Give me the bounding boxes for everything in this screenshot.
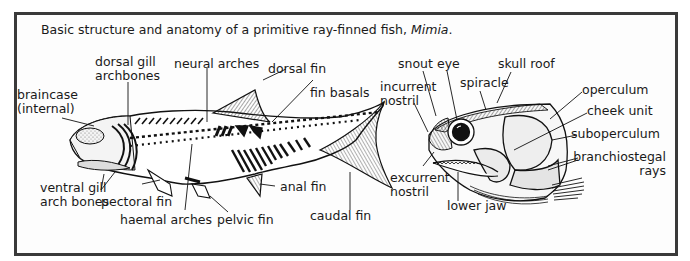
head-detail-drawing	[429, 104, 584, 204]
label-ventral-gill-arch-bones: ventral gillarch bones	[40, 181, 109, 209]
label-neural-arches: neural arches	[174, 57, 259, 71]
label-incurrent-nostril: incurrentnostril	[380, 80, 437, 108]
label-branchiostegal-rays: branchiostegalrays	[570, 150, 666, 178]
label-anal-fin: anal fin	[280, 180, 326, 194]
whole-fish-drawing	[70, 90, 392, 198]
label-excurrent-nostril: excurrentnostril	[390, 171, 450, 199]
label-lower-jaw: lower jaw	[447, 199, 507, 213]
label-snout: snout	[398, 57, 433, 71]
label-caudal-fin: caudal fin	[310, 209, 371, 223]
label-suboperculum: suboperculum	[571, 127, 660, 141]
label-pelvic-fin: pelvic fin	[217, 213, 274, 227]
label-spiracle: spiracle	[460, 76, 509, 90]
label-haemal-arches: haemal arches	[120, 213, 212, 227]
label-dorsal-gill-archbones: dorsal gillarchbones	[95, 55, 160, 83]
label-cheek-unit: cheek unit	[587, 104, 653, 118]
label-skull-roof: skull roof	[498, 57, 555, 71]
label-fin-basals: fin basals	[310, 86, 370, 100]
label-pectoral-fin: pectoral fin	[101, 195, 172, 209]
label-operculum: operculum	[582, 83, 649, 97]
label-braincase: braincase(internal)	[17, 88, 78, 116]
label-dorsal-fin: dorsal fin	[268, 62, 326, 76]
label-eye: eye	[437, 57, 460, 71]
